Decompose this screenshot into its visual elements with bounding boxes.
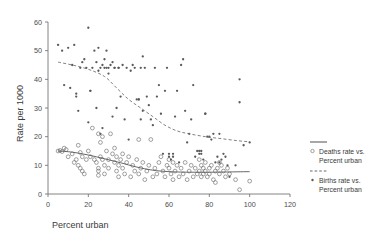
legend-label-line2: Percent urban (319, 157, 362, 164)
data-point (238, 188, 242, 192)
data-point (109, 132, 113, 136)
series-points-births (57, 27, 251, 178)
data-point (113, 67, 115, 69)
data-point (121, 152, 125, 156)
data-point (140, 118, 142, 120)
data-point (63, 84, 65, 86)
data-point (75, 95, 77, 97)
legend-marker-swatch (311, 179, 313, 181)
data-point (180, 64, 182, 66)
data-point (123, 118, 125, 120)
data-point (194, 156, 196, 158)
data-point (159, 155, 163, 159)
data-point (71, 64, 73, 66)
x-tick-label: 60 (165, 200, 173, 209)
data-point (214, 161, 216, 163)
data-point (127, 155, 131, 159)
data-point (193, 166, 197, 170)
data-point (103, 163, 107, 167)
data-point (204, 113, 206, 115)
data-point (95, 161, 99, 165)
data-point (209, 163, 213, 167)
axes-layer (48, 22, 290, 194)
x-tick-label: 80 (205, 200, 213, 209)
data-point (119, 158, 123, 162)
data-point (81, 61, 83, 63)
data-point (117, 163, 121, 167)
legend-item-births[interactable]: Births rate vs.Percent urban (310, 171, 362, 193)
data-point (218, 133, 220, 135)
data-point (148, 104, 150, 106)
data-point (84, 158, 88, 162)
data-point (137, 172, 141, 176)
data-point (224, 175, 228, 179)
x-tick-label: 120 (284, 200, 296, 209)
data-point (97, 70, 99, 72)
data-point (117, 67, 119, 69)
data-point (73, 44, 75, 46)
data-point (178, 161, 180, 163)
data-point (74, 158, 78, 162)
data-point (182, 58, 184, 60)
data-point (115, 169, 119, 173)
data-point (126, 67, 128, 69)
x-axis-title: Percent urban (52, 220, 109, 230)
data-point (162, 153, 164, 155)
data-point (93, 50, 95, 52)
data-point (222, 153, 224, 155)
data-point (218, 161, 220, 163)
data-point (141, 161, 145, 165)
data-point (105, 50, 107, 52)
data-point (138, 98, 140, 100)
data-point (132, 64, 134, 66)
data-point (105, 149, 109, 153)
x-tick-label: 100 (244, 200, 256, 209)
data-point (82, 172, 86, 176)
data-point (123, 172, 127, 176)
y-axis-title: Rate per 1000 (15, 85, 25, 142)
data-point (107, 67, 109, 69)
data-point (155, 172, 159, 176)
data-point (99, 67, 101, 69)
data-point (179, 166, 183, 170)
data-point (89, 90, 91, 92)
data-point (166, 67, 168, 69)
data-point (135, 158, 139, 162)
trend-line-births (58, 62, 250, 142)
data-point (107, 72, 109, 74)
data-point (197, 158, 201, 162)
data-point (228, 176, 230, 178)
data-point (202, 158, 204, 160)
data-point (234, 178, 238, 182)
y-tick-label: 60 (34, 18, 42, 27)
y-tick-label: 0 (38, 190, 42, 199)
data-point (164, 90, 166, 92)
data-point (147, 163, 151, 167)
y-tick-label: 10 (34, 161, 42, 170)
data-point (198, 153, 200, 155)
data-point (220, 158, 222, 160)
data-point (134, 67, 136, 69)
data-point (186, 141, 188, 143)
data-point (177, 175, 181, 179)
chart-svg: 0102030405060020406080100120 Percent urb… (0, 0, 379, 241)
data-point (142, 55, 144, 57)
data-point (184, 110, 186, 112)
data-point (111, 61, 113, 63)
data-point (216, 156, 218, 158)
data-point (216, 166, 220, 170)
data-point (111, 152, 115, 156)
data-point (101, 127, 103, 129)
data-point (80, 155, 84, 159)
data-point (163, 175, 167, 179)
y-tick-label: 20 (34, 132, 42, 141)
data-point (167, 166, 171, 170)
data-point (75, 93, 77, 95)
legend-marker-swatch (311, 149, 314, 152)
x-tick-label: 40 (125, 200, 133, 209)
data-point (119, 95, 121, 97)
legend-item-deaths[interactable]: Deaths rate vs.Percent urban (310, 142, 365, 164)
data-point (113, 146, 117, 150)
data-point (226, 164, 228, 166)
data-point (153, 166, 157, 170)
